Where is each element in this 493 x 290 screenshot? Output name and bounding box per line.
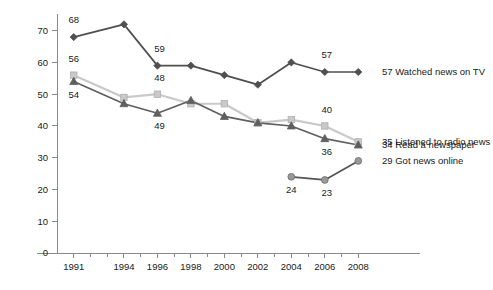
data-point-label: 40: [322, 104, 333, 115]
data-point-marker-square: [154, 91, 160, 97]
data-point-marker-circle: [288, 173, 295, 180]
series-lines: [74, 24, 359, 180]
y-axis-tick-label: 0: [43, 247, 48, 258]
y-axis-tick-label: 20: [37, 184, 48, 195]
x-axis-tick-label: 1994: [113, 261, 134, 272]
legend-entry-0: 57 Watched news on TV: [382, 66, 486, 77]
data-point-marker-triangle: [187, 96, 195, 103]
legend: 57 Watched news on TV35 Listened to radi…: [382, 66, 491, 166]
data-point-label: 68: [68, 14, 79, 25]
chart-container: 010203040506070 199119941996199820002002…: [0, 0, 493, 290]
x-axis-tick-label: 1998: [180, 261, 201, 272]
data-point-marker-diamond: [221, 72, 228, 79]
y-axis-tick-label: 30: [37, 152, 48, 163]
x-axis-tick-labels: 199119941996199820002002200420062008: [63, 253, 369, 272]
y-axis-tick-label: 40: [37, 120, 48, 131]
data-point-marker-square: [322, 123, 328, 129]
data-point-label: 59: [154, 43, 165, 54]
y-axis-tick-label: 50: [37, 89, 48, 100]
data-point-marker-circle: [355, 158, 362, 165]
data-point-label: 57: [322, 49, 333, 60]
chart-axes: [37, 14, 420, 253]
line-chart: 010203040506070 199119941996199820002002…: [0, 0, 493, 290]
x-axis-tick-label: 1991: [63, 261, 84, 272]
data-point-label: 48: [154, 72, 165, 83]
data-point-marker-circle: [321, 177, 328, 184]
x-axis-tick-label: 1996: [147, 261, 168, 272]
x-axis-tick-label: 2004: [281, 261, 302, 272]
x-axis-tick-label: 2006: [314, 261, 335, 272]
data-point-label: 23: [322, 187, 333, 198]
data-point-marker-diamond: [70, 33, 77, 40]
legend-entry-2: 34 Read a newspaper: [382, 139, 475, 150]
data-point-label: 36: [322, 146, 333, 157]
data-point-label: 56: [68, 53, 79, 64]
legend-entry-3: 29 Got news online: [382, 155, 463, 166]
y-axis-tick-label: 60: [37, 57, 48, 68]
data-point-label: 24: [286, 184, 297, 195]
data-point-marker-diamond: [355, 68, 362, 75]
series-markers: [70, 21, 363, 184]
data-point-label: 54: [68, 89, 79, 100]
y-axis-tick-label: 70: [37, 25, 48, 36]
series-line-0: [74, 24, 359, 84]
data-point-marker-diamond: [187, 62, 194, 69]
data-point-marker-diamond: [321, 68, 328, 75]
y-axis-tick-labels: 010203040506070: [37, 25, 57, 258]
x-axis-tick-label: 2008: [348, 261, 369, 272]
y-axis-tick-label: 10: [37, 216, 48, 227]
x-axis-tick-label: 2000: [214, 261, 235, 272]
data-point-marker-square: [221, 101, 227, 107]
x-axis-tick-label: 2002: [247, 261, 268, 272]
data-point-labels: 6859575648405449362423: [68, 14, 332, 198]
series-line-2: [74, 82, 359, 146]
data-point-label: 49: [154, 120, 165, 131]
series-line-1: [74, 75, 359, 142]
